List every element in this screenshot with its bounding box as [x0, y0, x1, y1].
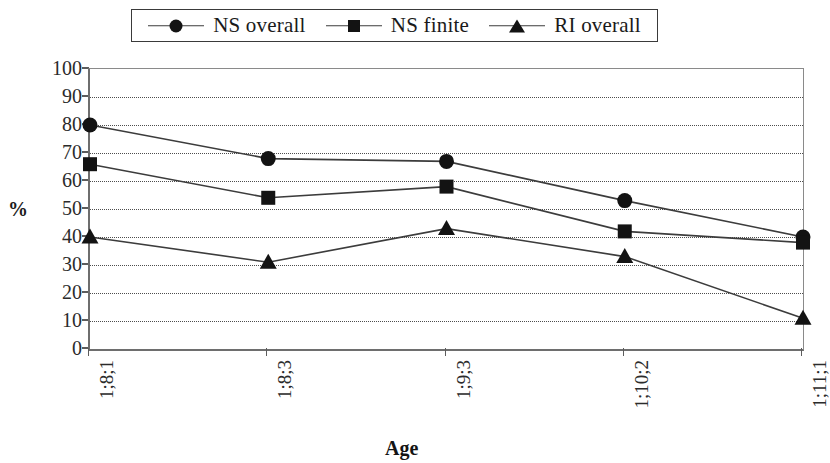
triangle-marker-icon — [509, 19, 525, 32]
y-tick-label: 70 — [36, 142, 82, 162]
plot-area — [88, 68, 804, 351]
x-tick-mark — [445, 348, 446, 356]
data-point-square — [796, 236, 810, 250]
data-point-triangle — [795, 310, 812, 325]
x-tick-mark — [801, 348, 802, 356]
legend-key-square — [326, 18, 382, 34]
data-point-square — [618, 224, 632, 238]
x-tick-label: 1;9;3 — [454, 360, 473, 399]
x-tick-label: 1;11;1 — [810, 360, 829, 408]
x-tick-label: 1;10;2 — [632, 360, 651, 409]
x-tick-label: 1;8;3 — [275, 360, 294, 399]
legend-entry-ns-finite: NS finite — [326, 15, 469, 36]
legend-entry-ns-overall: NS overall — [148, 15, 305, 36]
data-point-circle — [83, 118, 98, 133]
x-tick-mark — [266, 348, 267, 356]
data-point-circle — [439, 154, 454, 169]
circle-marker-icon — [170, 19, 183, 32]
x-axis-title: Age — [385, 437, 418, 460]
y-tick-label: 0 — [36, 338, 82, 358]
series-line — [90, 229, 803, 319]
y-tick-label: 10 — [36, 310, 82, 330]
square-marker-icon — [348, 20, 360, 32]
y-axis-title: % — [8, 198, 28, 221]
y-tick-label: 90 — [36, 86, 82, 106]
x-tick-mark — [623, 348, 624, 356]
legend-entry-ri-overall: RI overall — [489, 15, 641, 36]
chart-legend: NS overall NS finite RI overall — [131, 9, 658, 42]
legend-label-ri-overall: RI overall — [554, 15, 641, 36]
data-point-triangle — [438, 220, 455, 235]
y-tick-label: 100 — [36, 58, 82, 78]
data-point-circle — [261, 151, 276, 166]
legend-label-ns-finite: NS finite — [391, 15, 469, 36]
y-tick-label: 60 — [36, 170, 82, 190]
y-tick-label: 50 — [36, 198, 82, 218]
data-point-square — [261, 191, 275, 205]
y-tick-label: 80 — [36, 114, 82, 134]
series-layer — [90, 69, 803, 349]
data-point-square — [440, 180, 454, 194]
y-tick-label: 30 — [36, 254, 82, 274]
y-tick-label: 40 — [36, 226, 82, 246]
legend-key-triangle — [489, 18, 545, 34]
y-axis-labels: 0102030405060708090100 — [30, 68, 82, 348]
data-point-square — [83, 157, 97, 171]
data-point-circle — [617, 193, 632, 208]
x-tick-mark — [88, 348, 89, 356]
x-tick-label: 1;8;1 — [97, 360, 116, 399]
legend-label-ns-overall: NS overall — [213, 15, 305, 36]
legend-key-circle — [148, 18, 204, 34]
y-tick-label: 20 — [36, 282, 82, 302]
